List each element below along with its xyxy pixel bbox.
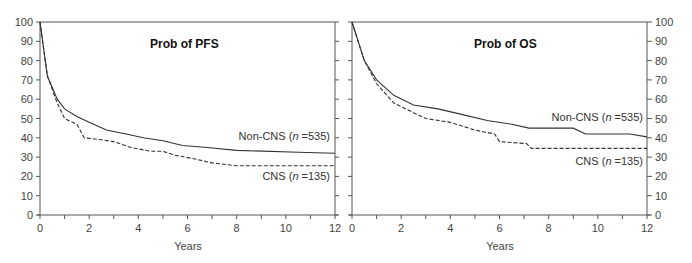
y-tick-label: 40 xyxy=(21,132,33,144)
x-tick-label: 8 xyxy=(546,222,552,234)
y-tick-label: 80 xyxy=(21,55,33,67)
x-tick-label: 2 xyxy=(398,222,404,234)
x-tick-label: 12 xyxy=(329,222,341,234)
y-tick-label: 50 xyxy=(655,113,667,125)
y-tick-label: 20 xyxy=(21,170,33,182)
x-tick-label: 10 xyxy=(592,222,604,234)
y-tick-label: 70 xyxy=(21,74,33,86)
y-tick-label: 70 xyxy=(655,74,667,86)
pfs-cns-label: CNS (n =135) xyxy=(262,170,330,182)
y-tick-label: 40 xyxy=(655,132,667,144)
os-panel: 0102030405060708090100024681012 Prob of … xyxy=(348,16,673,252)
y-tick-label: 0 xyxy=(27,209,33,221)
y-tick-label: 10 xyxy=(21,190,33,202)
x-tick-label: 0 xyxy=(349,222,355,234)
y-tick-label: 30 xyxy=(21,151,33,163)
y-tick-label: 60 xyxy=(21,93,33,105)
x-tick-label: 2 xyxy=(86,222,92,234)
x-tick-label: 4 xyxy=(135,222,141,234)
y-tick-label: 90 xyxy=(21,35,33,47)
x-tick-label: 6 xyxy=(184,222,190,234)
pfs-x-axis-label: Years xyxy=(174,240,202,252)
x-tick-label: 6 xyxy=(496,222,502,234)
y-tick-label: 90 xyxy=(655,35,667,47)
y-tick-label: 50 xyxy=(21,113,33,125)
x-tick-label: 10 xyxy=(280,222,292,234)
x-tick-label: 12 xyxy=(641,222,653,234)
y-tick-label: 10 xyxy=(655,190,667,202)
y-tick-label: 60 xyxy=(655,93,667,105)
y-tick-label: 100 xyxy=(15,16,33,28)
x-tick-label: 0 xyxy=(37,222,43,234)
pfs-panel: 0102030405060708090100024681012 Prob of … xyxy=(15,16,341,252)
os-noncns-label: Non-CNS (n =535) xyxy=(552,111,643,123)
y-tick-label: 80 xyxy=(655,55,667,67)
os-cns-label: CNS (n =135) xyxy=(575,155,643,167)
x-tick-label: 4 xyxy=(447,222,453,234)
pfs-title: Prob of PFS xyxy=(150,37,219,51)
y-tick-label: 100 xyxy=(655,16,673,28)
y-tick-label: 20 xyxy=(655,170,667,182)
os-x-axis-label: Years xyxy=(486,240,514,252)
km-survival-charts: 0102030405060708090100024681012 Prob of … xyxy=(0,0,692,263)
y-tick-label: 30 xyxy=(655,151,667,163)
os-title: Prob of OS xyxy=(474,37,537,51)
x-tick-label: 8 xyxy=(234,222,240,234)
y-tick-label: 0 xyxy=(655,209,661,221)
pfs-noncns-label: Non-CNS (n =535) xyxy=(239,130,330,142)
